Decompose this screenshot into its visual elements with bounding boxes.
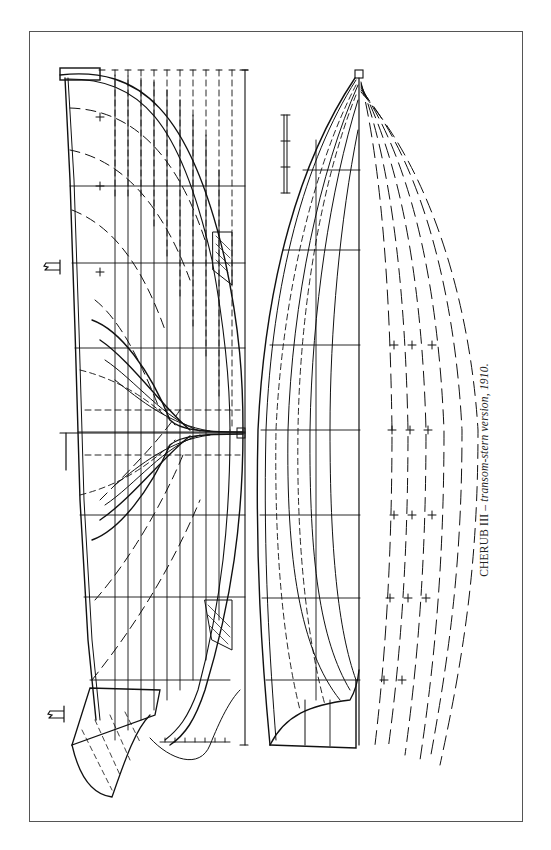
figure-caption: CHERUB III – transom-stern version, 1910…	[478, 363, 490, 577]
scale-bar	[281, 115, 290, 193]
caption-title: CHERUB III	[478, 514, 490, 577]
caption-description: transom-stern version, 1910.	[478, 363, 490, 502]
half-breadth-plan	[257, 70, 478, 765]
sheer-plan	[44, 68, 248, 797]
rudder	[72, 688, 240, 797]
caption-separator: –	[478, 502, 490, 514]
lines-plan-drawing	[0, 0, 551, 850]
